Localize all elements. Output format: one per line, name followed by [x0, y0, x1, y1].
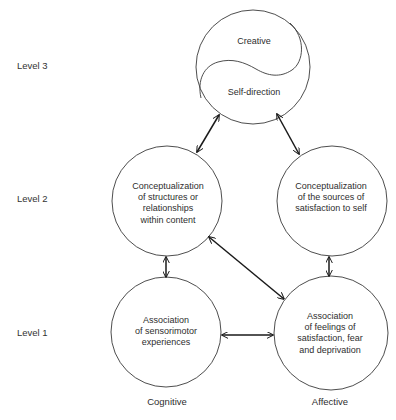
node-level3: [196, 10, 310, 124]
node-level1-cognitive-text: Association of sensorimotor experiences: [135, 315, 197, 349]
arrow-l2cog-l1aff: [209, 237, 284, 299]
level-2-label: Level 2: [17, 193, 48, 204]
node-level1-affective-text: Association of feelings of satisfaction,…: [297, 311, 363, 356]
node-level3-upper-text: Creative: [237, 36, 271, 47]
column-affective-label: Affective: [312, 396, 348, 407]
level-3-label: Level 3: [17, 60, 48, 71]
level-1-label: Level 1: [17, 327, 48, 338]
node-level3-lower-text: Self-direction: [228, 87, 281, 98]
node-level2-affective-text: Conceptualization of the sources of sati…: [295, 181, 367, 215]
arrow-l2cog-top: [197, 115, 219, 152]
column-cognitive-label: Cognitive: [147, 396, 187, 407]
node-level2-cognitive-text: Conceptualization of structures or relat…: [132, 181, 204, 226]
arrow-l2aff-top: [277, 114, 299, 154]
